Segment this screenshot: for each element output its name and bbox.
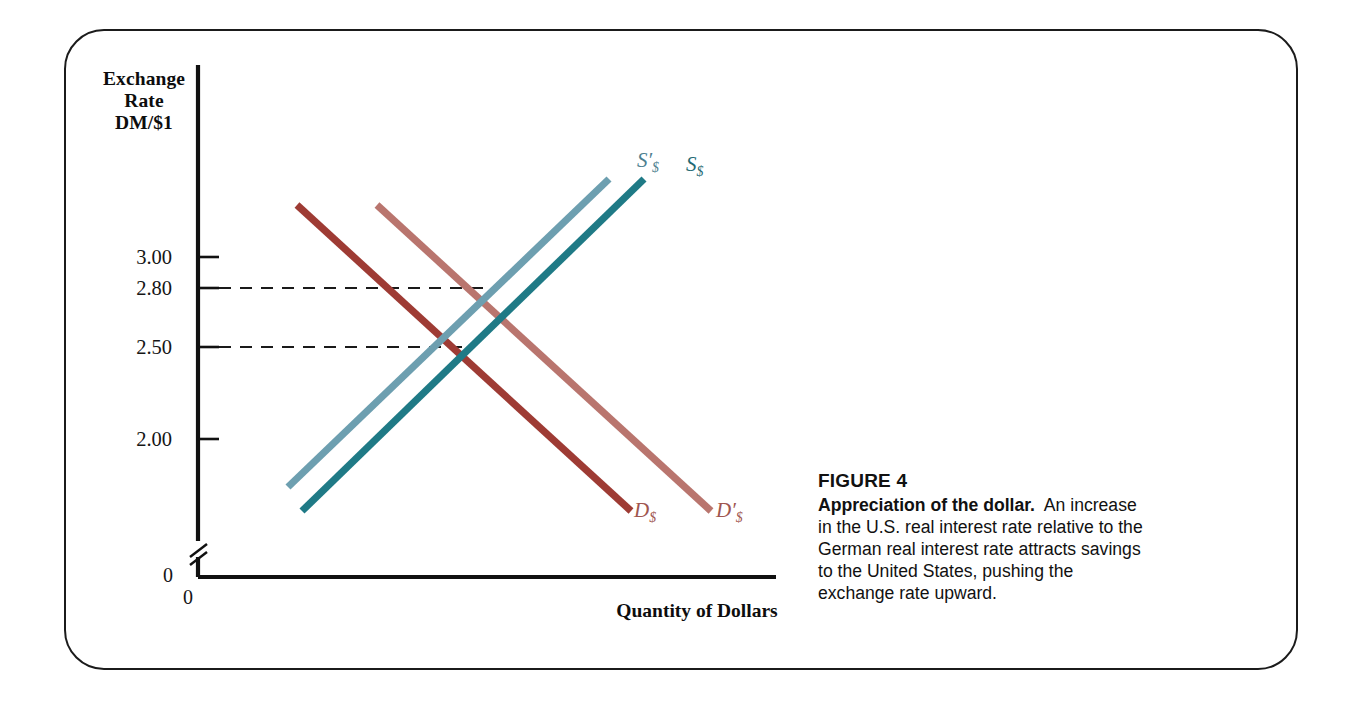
curve-label-demand-original-sub: $	[649, 510, 656, 525]
y-axis-title: ExchangeRateDM/$1	[88, 68, 200, 135]
figure-caption-block: FIGURE 4 Appreciation of the dollar. An …	[818, 470, 1148, 604]
y-axis-title-line2: Rate	[124, 90, 163, 111]
y-axis-title-line1: Exchange	[103, 68, 185, 89]
curve-label-demand-shifted-sub: $	[736, 510, 743, 525]
curve-label-demand-shifted-main: D	[716, 498, 731, 522]
curve-label-demand-original-main: D	[634, 498, 649, 522]
curve-label-supply-original-sub: $	[697, 164, 704, 179]
figure-caption-lead: Appreciation of the dollar.	[818, 495, 1035, 515]
y-tick-marks	[198, 257, 219, 439]
curve-label-supply-original: S$	[686, 152, 703, 180]
curve-label-supply-shifted-sub: $	[652, 160, 659, 175]
curve-label-supply-original-main: S	[686, 152, 697, 176]
y-origin-label: 0	[163, 564, 173, 587]
curve-label-demand-shifted: D′$	[716, 498, 743, 526]
y-tick-label-200: 2.00	[110, 428, 172, 451]
curve-label-supply-shifted-main: S	[637, 148, 648, 172]
y-tick-label-300: 3.00	[110, 246, 172, 269]
x-origin-label: 0	[183, 586, 193, 609]
y-tick-label-280: 2.80	[110, 277, 172, 300]
y-tick-label-250: 2.50	[110, 336, 172, 359]
figure-root: ExchangeRateDM/$1 Quantity of Dollars 3.…	[0, 0, 1365, 711]
figure-caption-text: Appreciation of the dollar. An increase …	[818, 494, 1148, 604]
x-axis-title: Quantity of Dollars	[592, 600, 802, 622]
curve-label-supply-shifted: S′$	[637, 148, 659, 176]
curve-supply-original	[302, 179, 644, 511]
curve-supply-shifted	[288, 179, 609, 487]
figure-heading: FIGURE 4	[818, 470, 1148, 492]
curve-label-demand-original: D$	[634, 498, 656, 526]
y-axis-title-line3: DM/$1	[115, 112, 173, 133]
